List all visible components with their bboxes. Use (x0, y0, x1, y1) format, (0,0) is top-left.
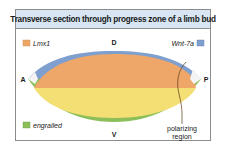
axis-label-dorsal: D (111, 39, 116, 46)
legend-swatch-wnt7a (197, 40, 204, 46)
annotation-region: region (172, 133, 192, 141)
legend-swatch-lmx1 (23, 40, 30, 46)
axis-label-ventral: V (112, 131, 117, 138)
legend-label-wnt7a: Wnt-7a (171, 40, 194, 47)
limb-bud-diagram: D V A P Lmx1 Wnt-7a engrailed polarizing… (16, 10, 212, 142)
annotation-polarizing: polarizing (167, 125, 197, 133)
legend-label-lmx1: Lmx1 (33, 40, 50, 47)
legend-label-engrailed: engrailed (33, 122, 63, 130)
ventral-mesoderm (34, 88, 196, 118)
limb-bud-figure: Transverse section through progress zone… (15, 9, 211, 141)
legend-swatch-engrailed (23, 122, 30, 128)
axis-label-posterior: P (204, 76, 209, 83)
axis-label-anterior: A (20, 76, 25, 83)
